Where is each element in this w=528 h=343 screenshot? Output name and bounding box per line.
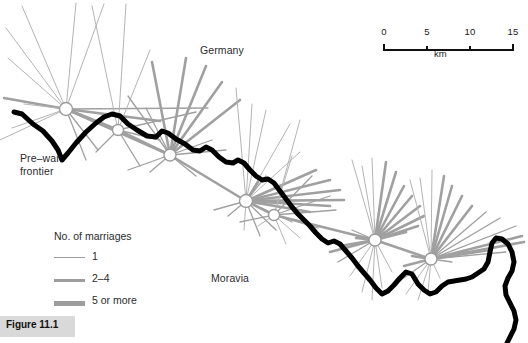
marriage-link xyxy=(6,28,66,109)
marriage-link xyxy=(92,6,118,130)
legend-item: 2–4 xyxy=(54,272,194,288)
settlement-node xyxy=(425,253,437,265)
marriage-link xyxy=(4,98,66,109)
settlement-node xyxy=(113,125,124,136)
marriage-link xyxy=(66,4,104,109)
marriage-link xyxy=(410,180,431,259)
legend-title: No. of marriages xyxy=(54,230,132,242)
legend-item-label: 2–4 xyxy=(92,272,110,284)
pre-war-frontier-label: Pre–war frontier xyxy=(20,152,60,177)
scale-tick-label: 5 xyxy=(424,26,429,37)
scale-bar: km 051015 xyxy=(378,26,520,62)
legend-line-swatch xyxy=(54,301,85,306)
settlement-node xyxy=(60,103,73,116)
settlement-node xyxy=(269,210,280,221)
figure-caption: Figure 11.1 xyxy=(6,319,58,330)
legend-line-swatch xyxy=(54,279,85,282)
marriage-network-map: Germany Moravia Pre–war frontier km 0510… xyxy=(0,0,528,343)
marriage-link xyxy=(66,3,76,109)
legend-item: 1 xyxy=(54,250,194,266)
legend-item-label: 5 or more xyxy=(92,294,137,306)
legend-item: 5 or more xyxy=(54,294,194,310)
scale-tick-label: 0 xyxy=(381,26,386,37)
marriage-link xyxy=(22,6,66,109)
settlement-node xyxy=(240,195,253,208)
legend-item-label: 1 xyxy=(92,250,98,262)
figure-caption-box: Figure 11.1 xyxy=(0,316,75,337)
settlement-node xyxy=(164,149,176,161)
scale-tick-label: 10 xyxy=(465,26,476,37)
scale-unit-label: km xyxy=(434,48,447,59)
marriage-link xyxy=(236,88,246,201)
scale-tick-label: 15 xyxy=(508,26,519,37)
legend-line-swatch xyxy=(54,257,85,258)
region-label-germany: Germany xyxy=(200,44,244,57)
region-label-moravia: Moravia xyxy=(211,272,249,285)
legend: No. of marriages 12–45 or more xyxy=(52,230,192,310)
marriage-link xyxy=(274,215,375,240)
settlement-node xyxy=(369,234,381,246)
marriage-link xyxy=(118,4,126,130)
